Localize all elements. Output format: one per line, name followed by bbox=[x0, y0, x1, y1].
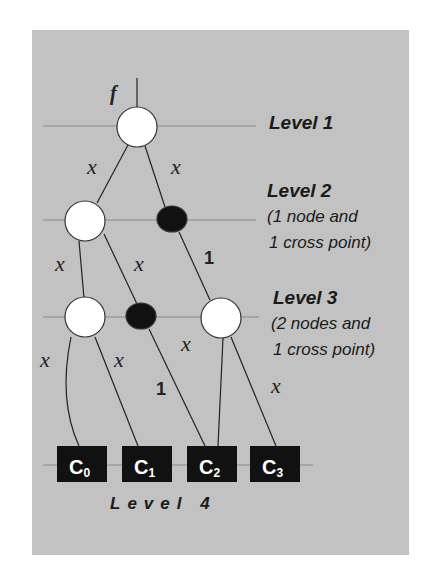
edge-label-l3-left: x bbox=[39, 347, 50, 372]
output-c3-sub: 3 bbox=[276, 466, 283, 480]
level-4-label: Level 4 bbox=[110, 494, 217, 514]
output-c0-sub: 0 bbox=[83, 466, 90, 480]
level-1-label: Level 1 bbox=[269, 112, 333, 134]
edge-l3-right-b bbox=[231, 337, 276, 446]
edge-l1-left bbox=[97, 145, 128, 203]
edge-label-l3-mid: x bbox=[113, 347, 124, 372]
edge-label-l2-mid: x bbox=[133, 251, 144, 276]
edge-l1-right bbox=[145, 146, 165, 207]
output-c3-base: C bbox=[262, 456, 276, 478]
node-level-1 bbox=[117, 107, 157, 147]
edge-label-l2-left: x bbox=[54, 251, 65, 276]
output-c2-base: C bbox=[199, 456, 213, 478]
level-2-note-line2: 1 cross point) bbox=[269, 230, 371, 256]
level-3-note-line2: 1 cross point) bbox=[273, 337, 375, 363]
edge-label-l1-right: x bbox=[170, 154, 181, 179]
edge-l2-mid bbox=[104, 234, 137, 304]
node-level-3-left bbox=[65, 297, 105, 337]
level-3-label: Level 3 bbox=[273, 287, 337, 309]
input-label-f: f bbox=[110, 82, 119, 105]
level-2-label: Level 2 bbox=[267, 180, 331, 202]
nodes bbox=[65, 107, 241, 338]
node-level-2 bbox=[65, 201, 105, 241]
cross-point-level-3 bbox=[126, 303, 156, 329]
node-level-3-right bbox=[201, 298, 241, 338]
edge-label-l2-cross: 1 bbox=[204, 248, 214, 268]
edges bbox=[66, 78, 276, 446]
output-c1-sub: 1 bbox=[148, 466, 155, 480]
edge-label-l3-right-out: x bbox=[270, 373, 281, 398]
output-c0-base: C bbox=[69, 456, 83, 478]
edge-l2-left bbox=[79, 241, 84, 298]
edge-l3-left bbox=[66, 337, 79, 446]
output-c1-base: C bbox=[134, 456, 148, 478]
output-c2-sub: 2 bbox=[213, 466, 220, 480]
cross-point-level-2 bbox=[157, 206, 187, 232]
edge-label-l3-right-in: x bbox=[180, 331, 191, 356]
level-2-note-line1: (1 node and bbox=[267, 204, 358, 230]
edge-l3-right-a bbox=[218, 338, 223, 446]
edge-label-l3-cross: 1 bbox=[156, 379, 166, 399]
level-3-note-line1: (2 nodes and bbox=[271, 311, 370, 337]
edge-label-l1-left: x bbox=[86, 154, 97, 179]
